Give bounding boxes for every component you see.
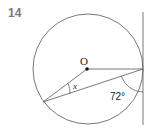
center-point [85, 67, 89, 71]
circle-tangent-diagram: O x 72° [0, 0, 155, 139]
chord [43, 69, 143, 102]
angle-x-label: x [72, 81, 77, 91]
radius-to-chord-end [43, 69, 87, 102]
center-label: O [80, 55, 88, 67]
angle-72-label: 72° [110, 91, 125, 102]
angle-72-arc [121, 76, 143, 92]
angle-x-arc [68, 83, 70, 94]
